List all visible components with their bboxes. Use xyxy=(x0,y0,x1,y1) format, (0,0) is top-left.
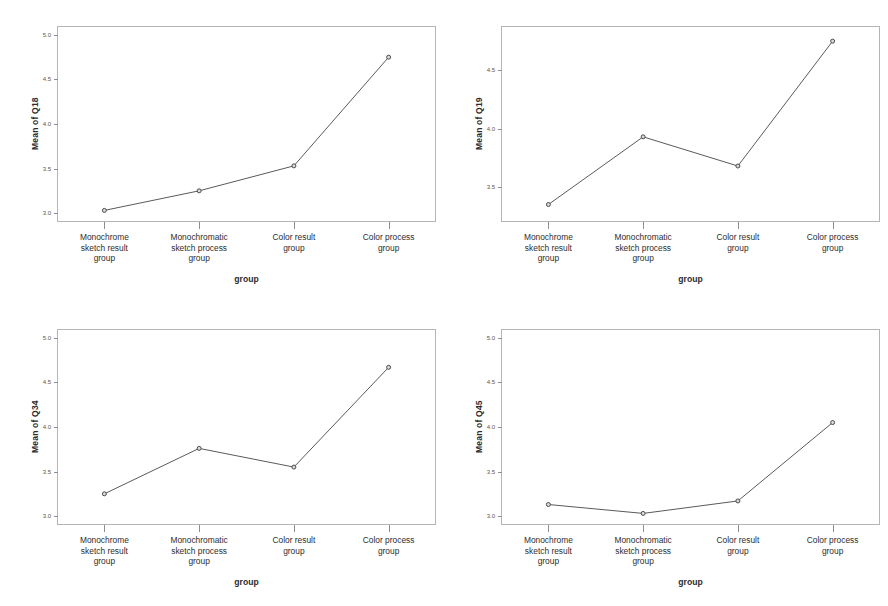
data-point-marker xyxy=(831,421,835,425)
series-line xyxy=(104,57,388,210)
series-line-chart xyxy=(444,303,888,606)
series-line-chart xyxy=(0,303,444,606)
data-point-marker xyxy=(736,164,740,168)
chart-panel-q45: Mean of Q455.04.54.03.53.0Monochrome ske… xyxy=(444,303,888,606)
data-point-marker xyxy=(387,55,391,59)
data-point-marker xyxy=(387,365,391,369)
data-point-marker xyxy=(197,189,201,193)
series-line-chart xyxy=(444,0,888,303)
series-line xyxy=(548,41,832,204)
series-line-chart xyxy=(0,0,444,303)
data-point-marker xyxy=(102,208,106,212)
chart-panel-q19: Mean of Q194.54.03.5Monochrome sketch re… xyxy=(444,0,888,303)
data-point-marker xyxy=(292,465,296,469)
data-point-marker xyxy=(736,499,740,503)
data-point-marker xyxy=(102,492,106,496)
data-point-marker xyxy=(197,446,201,450)
series-line xyxy=(104,367,388,494)
chart-grid: Mean of Q185.04.54.03.53.0Monochrome ske… xyxy=(0,0,888,606)
data-point-marker xyxy=(831,39,835,43)
data-point-marker xyxy=(641,511,645,515)
series-line xyxy=(548,423,832,514)
data-point-marker xyxy=(641,135,645,139)
chart-panel-q18: Mean of Q185.04.54.03.53.0Monochrome ske… xyxy=(0,0,444,303)
data-point-marker xyxy=(292,164,296,168)
data-point-marker xyxy=(546,503,550,507)
data-point-marker xyxy=(546,203,550,207)
chart-panel-q34: Mean of Q345.04.54.03.53.0Monochrome ske… xyxy=(0,303,444,606)
